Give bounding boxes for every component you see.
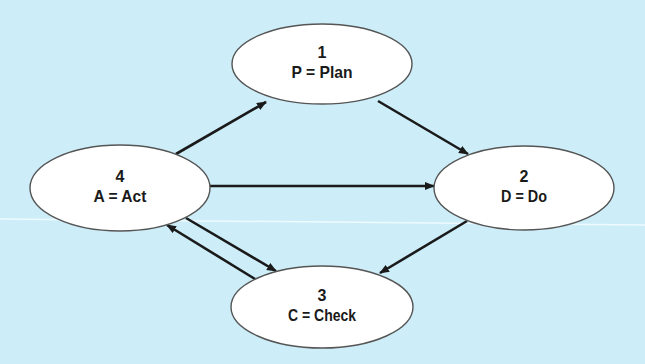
pdca-diagram: 1P = Plan2D = Do3C = Check4A = Act	[0, 0, 645, 364]
node-act: 4A = Act	[30, 145, 210, 231]
node-number: 4	[116, 168, 125, 185]
node-number: 3	[318, 287, 327, 304]
node-number: 2	[520, 168, 529, 185]
node-check: 3C = Check	[231, 266, 413, 348]
arrow-act-to-plan	[176, 102, 266, 154]
node-label: C = Check	[288, 306, 356, 325]
node-do: 2D = Do	[434, 146, 614, 230]
node-label: D = Do	[501, 187, 547, 206]
node-plan: 1P = Plan	[232, 24, 412, 104]
node-label: A = Act	[94, 187, 147, 206]
node-number: 1	[318, 44, 327, 61]
arrow-plan-to-do	[378, 101, 468, 154]
node-label: P = Plan	[292, 63, 353, 82]
arrow-do-to-check	[380, 221, 467, 273]
edges-group	[167, 101, 468, 279]
